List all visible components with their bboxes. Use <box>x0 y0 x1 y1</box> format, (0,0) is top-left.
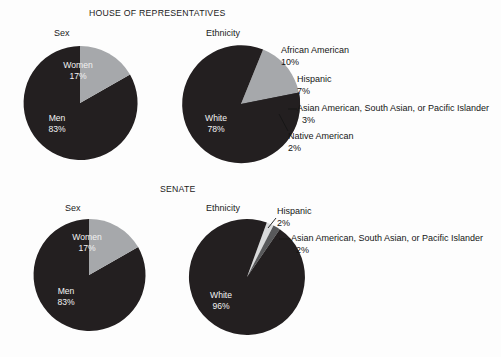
pie-label-senate-sex-men: Men 83% <box>36 286 96 308</box>
pie-label-house-sex-men: Men 83% <box>27 113 87 135</box>
leader-line-senate-hispanic <box>268 218 280 230</box>
pie-label-senate-sex-men-name: Men <box>58 286 75 296</box>
panel-title-senate-sex: Sex <box>65 203 81 213</box>
pie-label-house-sex-women-pct: 17% <box>48 71 108 82</box>
callout-house-ethnicity-asian-american-pct: 3% <box>302 115 489 127</box>
pie-label-senate-sex-women: Women 17% <box>57 232 117 254</box>
callout-senate-ethnicity-asian-american-pct: 2% <box>296 245 483 257</box>
pie-label-house-ethnicity-white-name: White <box>205 113 227 123</box>
pie-label-senate-sex-women-pct: 17% <box>57 243 117 254</box>
pie-label-house-sex-women-name: Women <box>63 60 92 70</box>
section-title-senate: SENATE <box>160 184 196 194</box>
figure-root: HOUSE OF REPRESENTATIVES Sex Ethnicity W… <box>0 0 501 357</box>
callout-house-ethnicity-african-american-name: African American <box>281 45 349 55</box>
panel-title-house-ethnicity: Ethnicity <box>206 28 240 38</box>
leader-line-house-asian-american <box>288 106 300 113</box>
callout-house-ethnicity-native-american-name: Native American <box>288 131 354 141</box>
pie-label-senate-ethnicity-white: White 96% <box>191 290 251 312</box>
pie-label-house-sex-men-pct: 83% <box>27 124 87 135</box>
pie-label-house-sex-men-name: Men <box>49 113 66 123</box>
callout-senate-ethnicity-hispanic-name: Hispanic <box>277 206 312 216</box>
leader-line-senate-asian-american <box>279 236 293 244</box>
callout-house-ethnicity-african-american: African American 10% <box>281 45 349 68</box>
callout-house-ethnicity-asian-american: Asian American, South Asian, or Pacific … <box>297 103 489 126</box>
callout-house-ethnicity-hispanic-name: Hispanic <box>297 74 332 84</box>
pie-label-senate-ethnicity-white-pct: 96% <box>191 301 251 312</box>
section-title-house: HOUSE OF REPRESENTATIVES <box>89 8 226 18</box>
pie-label-senate-sex-men-pct: 83% <box>36 297 96 308</box>
panel-title-senate-ethnicity: Ethnicity <box>206 203 240 213</box>
callout-house-ethnicity-native-american-pct: 2% <box>288 143 354 155</box>
panel-title-house-sex: Sex <box>54 28 70 38</box>
pie-label-house-ethnicity-white: White 78% <box>186 113 246 135</box>
callout-house-ethnicity-hispanic-pct: 7% <box>297 86 332 98</box>
callout-house-ethnicity-african-american-pct: 10% <box>281 57 349 69</box>
leader-line-house-native-american <box>279 114 293 134</box>
pie-label-senate-ethnicity-white-name: White <box>210 290 232 300</box>
callout-senate-ethnicity-hispanic: Hispanic 2% <box>277 206 312 229</box>
callout-house-ethnicity-asian-american-name: Asian American, South Asian, or Pacific … <box>297 103 489 113</box>
callout-senate-ethnicity-asian-american: Asian American, South Asian, or Pacific … <box>291 233 483 256</box>
pie-label-senate-sex-women-name: Women <box>72 232 101 242</box>
callout-senate-ethnicity-hispanic-pct: 2% <box>277 218 312 230</box>
callout-house-ethnicity-hispanic: Hispanic 7% <box>297 74 332 97</box>
callout-house-ethnicity-native-american: Native American 2% <box>288 131 354 154</box>
callout-senate-ethnicity-asian-american-name: Asian American, South Asian, or Pacific … <box>291 233 483 243</box>
pie-label-house-ethnicity-white-pct: 78% <box>186 124 246 135</box>
pie-label-house-sex-women: Women 17% <box>48 60 108 82</box>
